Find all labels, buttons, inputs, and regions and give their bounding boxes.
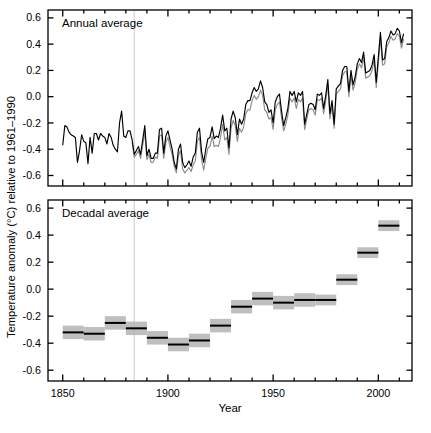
- x-axis-label: Year: [218, 402, 241, 414]
- x-tick-label-1: 1900: [156, 387, 180, 399]
- y-tick-label-annual-5: -0.4: [23, 143, 41, 155]
- x-tick-label-2: 1950: [261, 387, 285, 399]
- panel-title-decadal: Decadal average: [62, 207, 149, 219]
- y-tick-label-annual-4: -0.2: [23, 117, 41, 129]
- y-tick-label-annual-6: -0.6: [23, 169, 41, 181]
- y-tick-label-decadal-0: 0.6: [26, 202, 41, 214]
- annual-series-primary: [63, 28, 404, 169]
- y-tick-label-annual-1: 0.4: [26, 38, 41, 50]
- y-tick-label-decadal-1: 0.4: [26, 229, 41, 241]
- y-tick-label-decadal-5: -0.4: [23, 337, 41, 349]
- y-tick-label-decadal-6: -0.6: [23, 364, 41, 376]
- temperature-anomaly-chart: 0.60.40.20.0-0.2-0.4-0.6Annual average0.…: [0, 0, 431, 433]
- y-tick-label-annual-0: 0.6: [26, 11, 41, 23]
- y-tick-label-annual-2: 0.2: [26, 64, 41, 76]
- panel-frame-decadal: [48, 200, 412, 381]
- y-tick-label-annual-3: 0.0: [26, 90, 41, 102]
- figure-container: Temperature anomaly (°C) relative to 196…: [0, 0, 431, 433]
- x-tick-label-3: 2000: [366, 387, 390, 399]
- panel-frame-annual: [48, 10, 412, 186]
- y-tick-label-decadal-4: -0.2: [23, 310, 41, 322]
- panel-title-annual: Annual average: [62, 17, 143, 29]
- y-axis-label: Temperature anomaly (°C) relative to 196…: [5, 95, 17, 337]
- x-tick-label-0: 1850: [51, 387, 75, 399]
- y-axis-label-wrap: Temperature anomaly (°C) relative to 196…: [0, 0, 22, 433]
- y-tick-label-decadal-3: 0.0: [26, 283, 41, 295]
- y-tick-label-decadal-2: 0.2: [26, 256, 41, 268]
